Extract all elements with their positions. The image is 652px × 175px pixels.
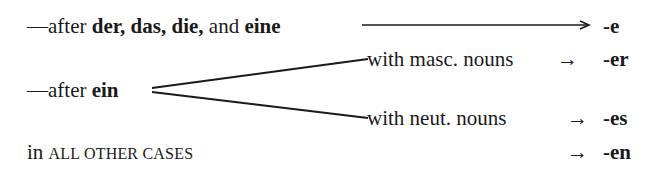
rule-prefix: —after xyxy=(27,14,92,38)
branch-masc-label: with masc. nouns xyxy=(367,49,513,70)
rule-prefix: —after xyxy=(27,78,92,102)
rule-bold-articles: der, das, die, xyxy=(92,14,204,38)
arrow-icon: → xyxy=(567,142,588,163)
rule-connector: and xyxy=(204,14,245,38)
suffix-e: -e xyxy=(603,16,619,37)
rule-definite-articles: —after der, das, die, and eine xyxy=(27,16,281,37)
suffix-er: -er xyxy=(603,49,629,70)
suffix-es: -es xyxy=(603,108,628,129)
rule-other-cases: in ALL OTHER CASES xyxy=(27,142,193,163)
branch-neut-label: with neut. nouns xyxy=(367,108,506,129)
arrow-icon: → xyxy=(567,108,588,129)
suffix-en: -en xyxy=(603,142,631,163)
rule-bold-ein: ein xyxy=(92,78,119,102)
rule-prefix: in xyxy=(27,140,49,164)
rule-small-caps: ALL OTHER CASES xyxy=(49,145,194,162)
rule-bold-last: eine xyxy=(244,14,280,38)
arrow-icon: → xyxy=(557,49,578,70)
rule-indefinite-article: —after ein xyxy=(27,80,119,101)
